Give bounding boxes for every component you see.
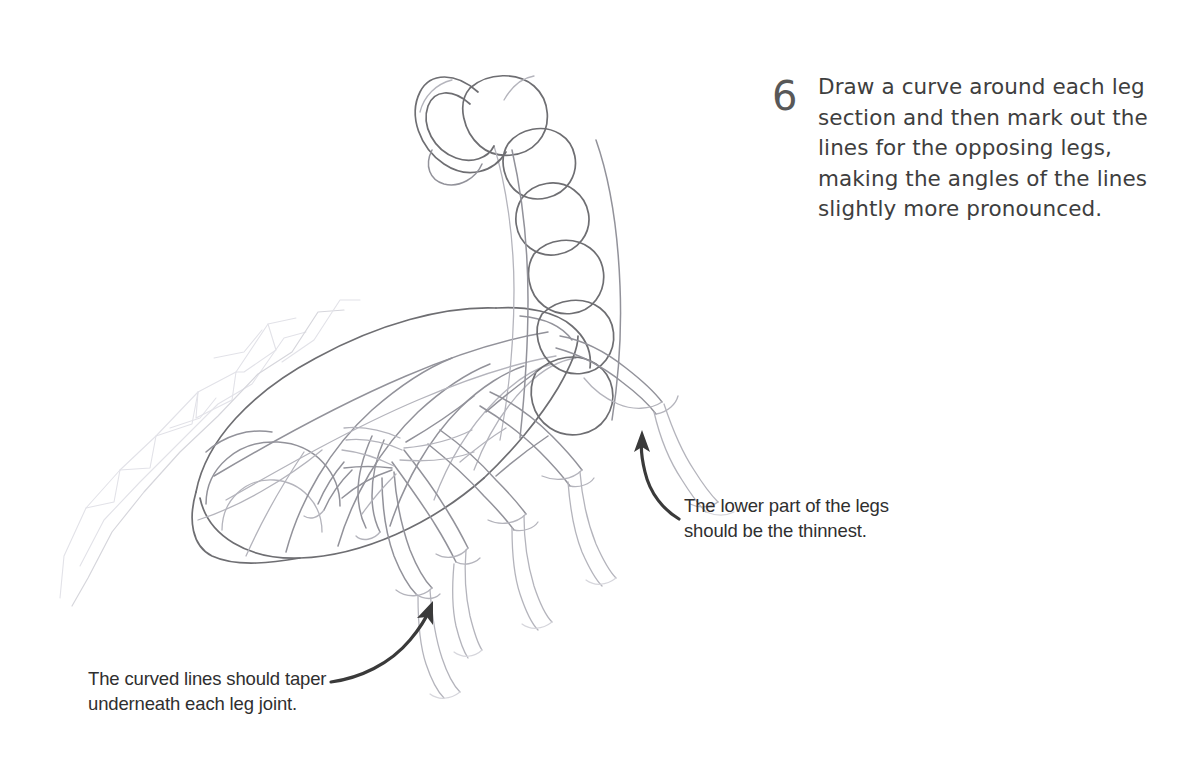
- callout-line: should be the thinnest.: [684, 518, 889, 543]
- callout-curved-lines-taper: The curved lines should taper underneath…: [88, 666, 326, 716]
- step-text-line: making the angles of the lines: [818, 164, 1148, 195]
- callout-line: The lower part of the legs: [684, 493, 889, 518]
- arrow-to-lower-leg: [634, 430, 679, 519]
- step-number: 6: [772, 72, 818, 116]
- abdomen-segments: [192, 308, 590, 563]
- callout-line: The curved lines should taper: [88, 666, 326, 691]
- legs-right: [392, 336, 734, 658]
- step-text-line: lines for the opposing legs,: [818, 133, 1148, 164]
- step-instruction-text: Draw a curve around each leg section and…: [818, 72, 1148, 225]
- step-text-line: Draw a curve around each leg: [818, 72, 1148, 103]
- callout-line: underneath each leg joint.: [88, 691, 326, 716]
- step-text-line: section and then mark out the: [818, 103, 1148, 134]
- step-instruction-block: 6 Draw a curve around each leg section a…: [772, 72, 1172, 225]
- callout-lower-legs-thinnest: The lower part of the legs should be the…: [684, 493, 889, 543]
- tutorial-page: .d { fill:none; stroke:#6e6e72; stroke-w…: [0, 0, 1180, 758]
- step-text-line: slightly more pronounced.: [818, 194, 1148, 225]
